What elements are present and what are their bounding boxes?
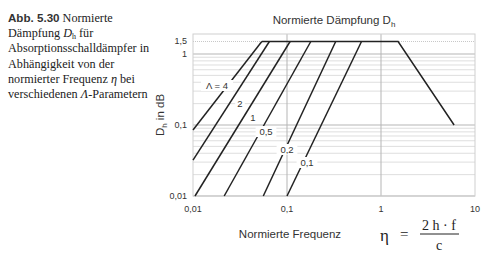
chart-title: Normierte Dämpfung Dh [273, 14, 396, 29]
x-tick-label: 10 [470, 204, 480, 214]
y-tick-label: 0,1 [174, 120, 187, 130]
chart: Λ = 4210,50,20,1 0,010,11100,010,111,5 N… [0, 0, 503, 254]
x-tick-label: 0,1 [281, 204, 294, 214]
formula-numerator: 2 h · f [422, 218, 456, 233]
formula-equals: = [400, 226, 408, 242]
x-axis-label: Normierte Frequenz [239, 228, 342, 240]
series-label: Λ = 4 [206, 80, 228, 91]
formula-lhs: η [380, 226, 389, 245]
x-tick-label: 1 [378, 204, 383, 214]
series-label: 2 [237, 98, 242, 109]
series-label: 1 [250, 112, 255, 123]
y-tick-label: 1 [182, 49, 187, 59]
chart-labels: Λ = 4210,50,20,1 [201, 80, 317, 168]
series-label: 0,5 [259, 126, 272, 137]
eta-formula: η = 2 h · f c [380, 218, 459, 253]
formula-denominator: c [436, 238, 442, 253]
x-tick-label: 0,01 [184, 204, 202, 214]
chart-grid [193, 34, 475, 196]
series-label: 0,1 [300, 157, 313, 168]
plot-frame [193, 34, 475, 196]
y-axis-label: Dh in dB [154, 94, 169, 137]
y-tick-label: 0,01 [169, 191, 187, 201]
series-label: 0,2 [280, 144, 293, 155]
series-line [193, 42, 269, 161]
y-tick-label: 1,5 [174, 36, 187, 46]
